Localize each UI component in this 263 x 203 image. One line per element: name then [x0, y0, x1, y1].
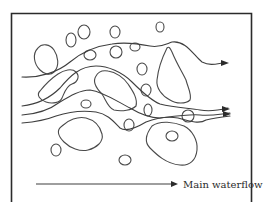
arrowhead-icon: [221, 60, 229, 66]
legend: Main waterflow: [36, 179, 263, 190]
diagram-frame: [12, 14, 252, 203]
grain-small: [156, 22, 164, 32]
flow-paths: [22, 42, 230, 130]
grain-small: [78, 25, 90, 39]
flow-arrowheads: [221, 60, 231, 117]
grain-small: [119, 155, 131, 165]
waterflow-diagram: Main waterflow: [0, 0, 263, 202]
grain-small: [51, 144, 61, 156]
grain-large-top-left: [34, 45, 57, 74]
grain-small: [66, 33, 76, 47]
grain-small: [81, 100, 91, 108]
grain-small: [137, 63, 147, 75]
grain-large-top-right: [157, 47, 191, 103]
grain-small: [144, 104, 152, 116]
grain-small: [110, 26, 120, 38]
legend-label: Main waterflow: [183, 179, 263, 190]
legend-arrowhead-icon: [171, 181, 178, 187]
large-grains: [34, 45, 197, 165]
grain-large-center: [94, 71, 136, 111]
grain-large-bottom-right: [146, 122, 197, 165]
grain-large-bottom-left: [58, 117, 102, 150]
grain-small: [110, 46, 122, 58]
grain-small: [166, 131, 178, 141]
